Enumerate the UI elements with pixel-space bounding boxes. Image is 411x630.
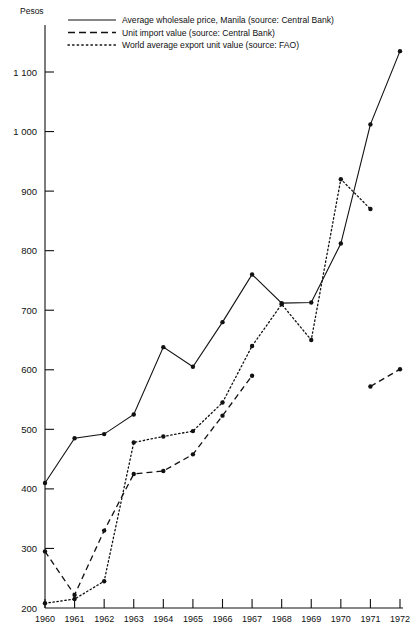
x-axis-tick-label: 1971 (360, 614, 380, 624)
y-axis-tick-label: 900 (21, 186, 37, 197)
series-dashed-point (191, 452, 195, 456)
series-dotted-point (309, 338, 313, 342)
y-axis-tick-label: 300 (21, 543, 37, 554)
series-solid-point (309, 300, 313, 304)
series-solid-point (250, 272, 254, 276)
series-solid-point (398, 49, 402, 53)
line-chart: 2003004005006007008009001 0001 100196019… (0, 0, 411, 630)
series-dashed-point (161, 469, 165, 473)
legend-label: World average export unit value (source:… (122, 40, 299, 50)
y-axis-tick-label: 400 (21, 483, 37, 494)
series-solid-point (339, 241, 343, 245)
x-axis-tick-label: 1963 (124, 614, 144, 624)
series-dashed-point (220, 413, 224, 417)
x-axis-tick-label: 1962 (94, 614, 114, 624)
series-dotted-point (279, 302, 283, 306)
series-dashed-point (43, 549, 47, 553)
series-dotted-point (132, 440, 136, 444)
series-dotted-point (368, 207, 372, 211)
x-axis-tick-label: 1968 (272, 614, 292, 624)
series-dotted-point (102, 579, 106, 583)
x-axis-tick-label: 1961 (65, 614, 85, 624)
series-dashed-point (368, 384, 372, 388)
series-solid-point (161, 345, 165, 349)
series-solid-point (220, 320, 224, 324)
series-dotted-point (43, 601, 47, 605)
legend-label: Unit import value (source: Central Bank) (122, 28, 275, 38)
axes (45, 25, 403, 608)
x-axis-tick-label: 1972 (390, 614, 410, 624)
chart-container: 2003004005006007008009001 0001 100196019… (0, 0, 411, 630)
y-axis-title: Pesos (20, 6, 44, 16)
series-dashed-point (132, 472, 136, 476)
y-axis-tick-label: 1 100 (13, 67, 37, 78)
legend-label: Average wholesale price, Manila (source:… (122, 15, 334, 25)
x-axis-tick-label: 1967 (242, 614, 262, 624)
tick-labels-layer: 2003004005006007008009001 0001 100196019… (13, 6, 410, 624)
x-axis-tick-label: 1970 (331, 614, 351, 624)
series-dashed-point (398, 367, 402, 371)
series-dotted-point (339, 177, 343, 181)
series-solid-point (191, 365, 195, 369)
y-axis-tick-label: 800 (21, 245, 37, 256)
series-dotted-line (45, 179, 370, 603)
data-series-layer (43, 49, 402, 605)
series-solid-point (43, 481, 47, 485)
series-solid-point (368, 122, 372, 126)
series-solid-point (132, 412, 136, 416)
x-axis-tick-label: 1966 (212, 614, 232, 624)
series-dotted-point (72, 597, 76, 601)
series-dashed-point (72, 593, 76, 597)
series-dotted-point (220, 400, 224, 404)
chart-legend: Average wholesale price, Manila (source:… (68, 15, 334, 50)
series-dashed-line (370, 369, 400, 386)
series-dashed-point (102, 528, 106, 532)
series-dotted-point (161, 434, 165, 438)
series-solid-point (72, 436, 76, 440)
series-dotted-point (250, 344, 254, 348)
x-axis-tick-label: 1960 (35, 614, 55, 624)
series-dashed-point (250, 374, 254, 378)
series-dashed-line (45, 376, 252, 595)
y-axis-tick-label: 200 (21, 603, 37, 614)
x-axis-tick-label: 1965 (183, 614, 203, 624)
y-axis-tick-label: 1 000 (13, 126, 37, 137)
y-axis-tick-label: 600 (21, 364, 37, 375)
series-solid-line (45, 51, 400, 483)
y-axis-tick-label: 700 (21, 305, 37, 316)
series-dotted-point (191, 429, 195, 433)
y-axis-tick-label: 500 (21, 424, 37, 435)
x-axis-tick-label: 1964 (153, 614, 173, 624)
series-solid-point (102, 432, 106, 436)
x-axis-tick-label: 1969 (301, 614, 321, 624)
